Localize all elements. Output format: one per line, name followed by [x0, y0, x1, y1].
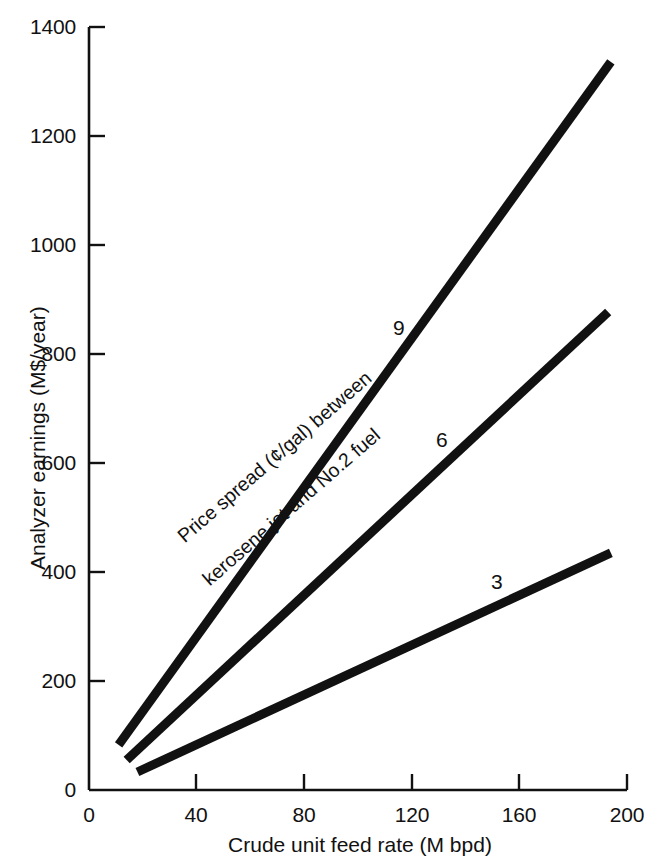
y-tick-label-1000: 1000: [10, 233, 76, 257]
plot-area: [0, 0, 659, 867]
y-tick-label-200: 200: [10, 669, 76, 693]
x-axis-title: Crude unit feed rate (M bpd): [228, 833, 492, 857]
series-line-9: [119, 62, 611, 745]
y-tick-label-1400: 1400: [10, 15, 76, 39]
series-label-6: 6: [436, 428, 448, 452]
series-label-9: 9: [393, 316, 405, 340]
series-label-3: 3: [491, 570, 503, 594]
y-tick-label-1200: 1200: [10, 124, 76, 148]
y-tick-label-0: 0: [10, 778, 76, 802]
x-tick-label-0: 0: [83, 803, 94, 827]
y-axis-title: Analyzer earnings (M$/year): [26, 306, 50, 570]
chart-figure: 1400 1200 1000 800 600 400 200 0 0 40 80…: [0, 0, 659, 867]
x-tick-label-120: 120: [395, 803, 429, 827]
x-tick-label-40: 40: [185, 803, 208, 827]
x-tick-label-200: 200: [610, 803, 644, 827]
x-tick-label-80: 80: [293, 803, 316, 827]
y-axis-ticks: [89, 27, 105, 681]
x-axis-ticks: [196, 774, 627, 790]
x-tick-label-160: 160: [502, 803, 536, 827]
